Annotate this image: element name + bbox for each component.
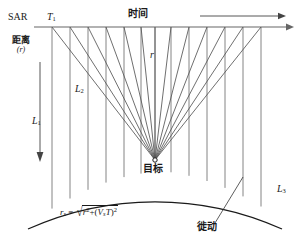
slant-line-9	[155, 27, 189, 160]
slant-line-3	[88, 27, 155, 160]
range-axis-label-group: 距离 (r)	[8, 36, 34, 55]
slant-range-symbol-label: r	[150, 50, 154, 60]
eq-radicand: r2+(VsT)2	[82, 205, 118, 217]
time-direction-arrowhead	[278, 13, 286, 19]
migration-label: 徙动	[197, 222, 217, 232]
range-axis-arrowhead	[37, 152, 44, 162]
sar-range-migration-figure: SAR T1 时间 距离 (r) L1 L2 L3 r 目标 徙动 rs = √…	[0, 0, 304, 244]
eq-lhs-sub: s	[64, 210, 67, 217]
time-axis-label: 时间	[128, 9, 148, 19]
eq-term2-sup: 2	[114, 206, 117, 213]
range-axis-arrow	[37, 62, 44, 162]
pulse-time-label: T1	[47, 12, 56, 23]
range-equation: rs = √r2+(VsT)2	[60, 203, 118, 219]
range-axis-symbol: (r)	[8, 46, 34, 54]
time-axis-group	[34, 23, 294, 30]
l1-label: L1	[32, 116, 41, 127]
radical-icon: √	[76, 204, 82, 220]
slant-line-11	[155, 27, 225, 160]
sar-label: SAR	[8, 12, 27, 22]
target-label: 目标	[143, 164, 163, 174]
migration-leader-line	[215, 177, 243, 223]
vertical-range-lines	[52, 27, 261, 209]
l2-label: L2	[75, 84, 84, 95]
time-axis-arrowhead	[286, 23, 294, 30]
range-axis-label: 距离	[8, 36, 34, 45]
time-direction-arrow	[200, 13, 286, 19]
l3-label: L3	[277, 184, 286, 195]
diagram-canvas	[0, 0, 304, 244]
target-point-marker	[153, 158, 157, 162]
eq-equals: =	[68, 207, 73, 217]
